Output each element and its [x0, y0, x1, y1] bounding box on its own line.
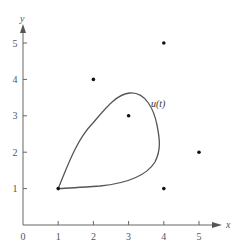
x-tick-label-1: 1: [56, 231, 61, 242]
point-1-1: [56, 187, 60, 191]
axes: [23, 30, 215, 225]
y-tick-label-5: 5: [13, 38, 18, 49]
point-4-1: [162, 187, 166, 191]
x-tick-label-3: 3: [126, 231, 131, 242]
data-points: [56, 41, 200, 190]
x-tick-label-0: 0: [21, 231, 26, 242]
point-2-4: [92, 78, 96, 82]
y-axis-label: y: [19, 13, 25, 24]
curve-label: u(t): [151, 98, 166, 110]
x-axis-label: x: [225, 219, 231, 230]
y-tick-label-1: 1: [13, 183, 18, 194]
y-axis-arrow-icon: [20, 24, 26, 33]
curve-u-t: [58, 93, 159, 189]
x-axis-arrow-icon: [212, 222, 222, 228]
y-tick-label-3: 3: [13, 110, 18, 121]
point-3-3: [127, 114, 131, 118]
point-4-5: [162, 41, 166, 45]
y-tick-label-4: 4: [13, 74, 18, 85]
x-ticks: [58, 221, 199, 225]
chart: 0 1 2 3 4 5 1 2 3 4 5 x y u(t): [0, 0, 237, 248]
x-tick-label-5: 5: [197, 231, 202, 242]
x-tick-label-2: 2: [91, 231, 96, 242]
point-5-2: [197, 150, 201, 154]
y-ticks: [23, 43, 27, 189]
y-tick-label-2: 2: [13, 147, 18, 158]
x-tick-label-4: 4: [161, 231, 166, 242]
